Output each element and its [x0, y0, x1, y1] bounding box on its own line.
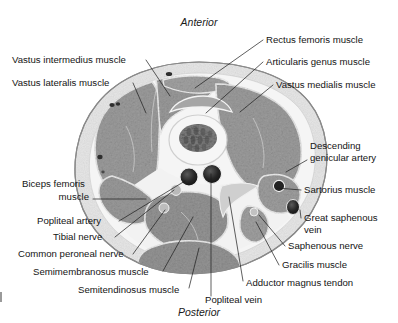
saphenous-nerve-structure [250, 208, 258, 216]
descending-genicular-artery-vessel [273, 180, 284, 191]
label-great-saphenous-vein-line2: vein [304, 224, 322, 235]
anatomy-figure: Anterior Posterior Vastus intermedius [0, 0, 398, 323]
label-rectus-femoris-muscle: Rectus femoris muscle [266, 34, 363, 45]
label-sartorius-muscle: Sartorius muscle [304, 184, 375, 195]
popliteal-vein-vessel [203, 165, 222, 184]
label-vastus-lateralis-muscle: Vastus lateralis muscle [12, 77, 109, 88]
label-popliteal-vein: Popliteal vein [205, 294, 262, 305]
label-great-saphenous-vein-line1: Great saphenous [304, 212, 378, 223]
label-articularis-genus-muscle: Articularis genus muscle [266, 56, 370, 67]
label-descending-genicular-artery-line1: Descending [310, 140, 361, 151]
label-semimembranosus-muscle: Semimembranosus muscle [33, 266, 149, 277]
label-adductor-magnus-tendon: Adductor magnus tendon [246, 277, 353, 288]
label-popliteal-artery: Popliteal artery [37, 215, 101, 226]
great-saphenous-vein-vessel [287, 200, 300, 215]
popliteal-artery-vessel [180, 168, 198, 186]
edge-tick-mark [0, 292, 2, 302]
label-common-peroneal-nerve: Common peroneal nerve [18, 248, 124, 259]
orientation-label-posterior: Posterior [178, 306, 221, 318]
label-vastus-medialis-muscle: Vastus medialis muscle [276, 79, 376, 90]
label-gracilis-muscle: Gracilis muscle [282, 259, 347, 270]
label-semitendinosus-muscle: Semitendinosus muscle [78, 284, 179, 295]
label-vastus-intermedius-muscle: Vastus intermedius muscle [12, 54, 126, 65]
orientation-label-anterior: Anterior [180, 16, 218, 28]
label-tibial-nerve: Tibial nerve [53, 231, 102, 242]
label-saphenous-nerve: Saphenous nerve [288, 240, 363, 251]
figure-page: Anterior Posterior Vastus intermedius [0, 0, 398, 323]
label-biceps-femoris-muscle-line1: Biceps femoris [22, 178, 85, 189]
label-biceps-femoris-muscle-line2: muscle [59, 191, 89, 202]
label-descending-genicular-artery-line2: genicular artery [310, 152, 376, 163]
